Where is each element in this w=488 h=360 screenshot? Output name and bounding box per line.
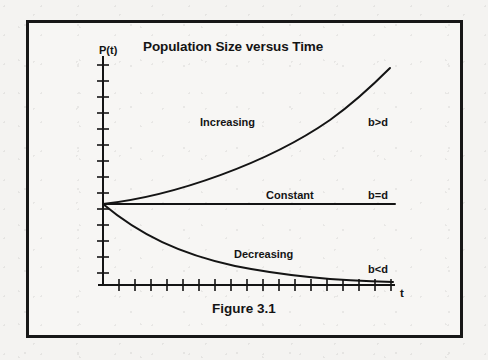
- chart-title: Population Size versus Time: [143, 40, 323, 54]
- curve-label-decreasing: Decreasing: [234, 249, 293, 260]
- condition-label-b-less-d: b<d: [368, 264, 388, 275]
- figure-screenshot: Population Size versus Time P(t) t Incre…: [0, 0, 488, 360]
- curve-label-constant: Constant: [266, 190, 314, 201]
- condition-label-b-equal-d: b=d: [368, 190, 388, 201]
- y-axis-label: P(t): [99, 45, 117, 56]
- figure-border-frame: [26, 20, 463, 338]
- curve-label-increasing: Increasing: [200, 117, 255, 128]
- condition-label-b-greater-d: b>d: [368, 117, 388, 128]
- figure-caption: Figure 3.1: [0, 302, 488, 316]
- x-axis-label: t: [400, 288, 404, 300]
